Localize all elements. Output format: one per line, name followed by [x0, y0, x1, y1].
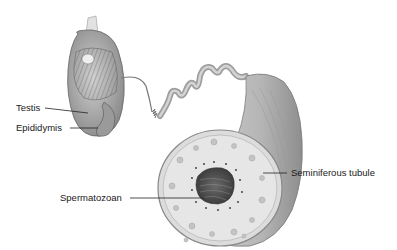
label-seminiferous-tubule: Seminiferous tubule — [291, 168, 375, 178]
testis-illustration — [68, 16, 157, 136]
label-epididymis: Epididymis — [16, 123, 62, 133]
seminiferous-tubule-illustration — [158, 74, 302, 246]
label-spermatozoan: Spermatozoan — [60, 193, 122, 203]
label-testis: Testis — [16, 103, 40, 113]
coiled-tubule — [160, 66, 246, 116]
